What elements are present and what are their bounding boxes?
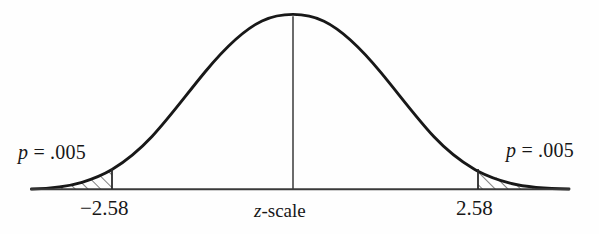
p-symbol-right: p: [506, 139, 516, 161]
tick-label-positive-2-58: 2.58: [456, 198, 493, 219]
tick-label-negative-2-58: −2.58: [80, 198, 129, 219]
bell-curve-path: [32, 14, 570, 189]
p-value-label-left: p = .005: [18, 142, 86, 162]
normal-distribution-figure: p = .005 p = .005 −2.58 2.58 z-scale: [0, 0, 599, 234]
p-value-text-right: = .005: [516, 139, 574, 161]
p-symbol-left: p: [18, 141, 28, 163]
p-value-label-right: p = .005: [506, 140, 574, 160]
axis-title-rest: -scale: [261, 200, 305, 221]
x-axis-title: z-scale: [254, 201, 306, 220]
p-value-text-left: = .005: [28, 141, 86, 163]
